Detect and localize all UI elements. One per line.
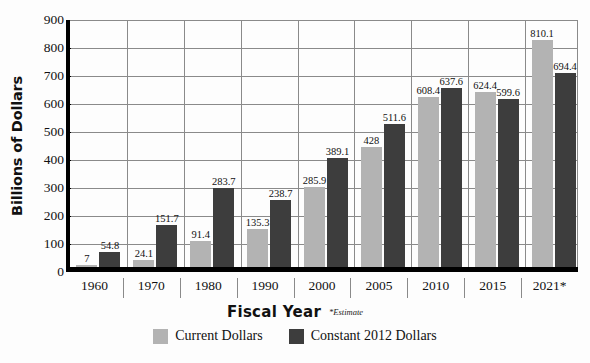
bar-value-label: 135.3 [246,217,270,228]
bar-group: 754.8 [70,20,127,267]
x-axis-tick-label: 1980 [180,278,237,294]
x-axis-tick-label: 2021* [521,278,578,294]
y-axis-tick-label: 600 [30,96,64,112]
bar-current-dollars: 608.4 [418,97,439,267]
y-axis-tick-labels: 9008007006005004003002001000 [26,20,64,272]
bar-current-dollars: 810.1 [532,40,553,267]
legend-item[interactable]: Constant 2012 Dollars [289,328,437,344]
y-axis-tick-label: 400 [30,152,64,168]
x-axis-tick-label: 1990 [237,278,294,294]
bar-value-label: 7 [84,253,89,264]
bar-current-dollars: 624.4 [475,92,496,267]
y-axis-tick-mark [66,160,71,161]
y-axis-tick-label: 0 [30,264,64,280]
x-axis-separator [180,278,181,298]
x-axis-separator [521,278,522,298]
bar-current-dollars: 7 [76,265,97,267]
bar-current-dollars: 285.9 [304,187,325,267]
y-axis-tick-mark [66,76,71,77]
x-axis-tick-label: 1970 [123,278,180,294]
bar-constant-dollars: 151.7 [156,225,177,267]
bar-value-label: 285.9 [303,175,327,186]
bar-value-label: 511.6 [383,112,406,123]
bar-group: 428511.6 [354,20,411,267]
bar-group: 608.4637.6 [411,20,468,267]
legend-label: Current Dollars [175,328,262,344]
estimate-note: *Estimate [329,307,363,317]
chart-legend: Current DollarsConstant 2012 Dollars [0,328,590,344]
bar-constant-dollars: 511.6 [384,124,405,267]
bar-group: 285.9389.1 [298,20,355,267]
bar-group: 810.1694.4 [525,20,582,267]
bar-value-label: 694.4 [553,61,577,72]
y-axis-tick-label: 500 [30,124,64,140]
bar-group: 91.4283.7 [184,20,241,267]
bar-value-label: 810.1 [530,28,554,39]
bar-constant-dollars: 54.8 [99,252,120,267]
plot-inner: 754.824.1151.791.4283.7135.3238.7285.938… [70,20,578,267]
bar-value-label: 637.6 [439,76,463,87]
bar-current-dollars: 24.1 [133,260,154,267]
legend-swatch-icon [289,329,304,344]
bar-value-label: 151.7 [155,213,179,224]
y-axis-tick-mark [66,244,71,245]
x-axis-separator [294,278,295,298]
legend-item[interactable]: Current Dollars [153,328,262,344]
bar-value-label: 24.1 [135,248,153,259]
x-axis-tick-label: 2005 [350,278,407,294]
x-axis-tick-label: 1960 [66,278,123,294]
y-axis-tick-label: 700 [30,68,64,84]
x-axis-tick-label: 2000 [294,278,351,294]
plot-area: 754.824.1151.791.4283.7135.3238.7285.938… [66,20,578,272]
y-axis-tick-label: 300 [30,180,64,196]
bar-value-label: 608.4 [416,85,440,96]
bar-constant-dollars: 637.6 [441,88,462,267]
bar-current-dollars: 428 [361,147,382,267]
bar-value-label: 91.4 [192,229,210,240]
x-axis-separator [123,278,124,298]
y-axis-tick-label: 800 [30,40,64,56]
y-axis-tick-label: 100 [30,236,64,252]
y-axis-tick-mark [66,132,71,133]
x-axis-tick-label: 2010 [407,278,464,294]
x-axis-separator [237,278,238,298]
y-axis-tick-label: 200 [30,208,64,224]
y-axis-tick-mark [66,48,71,49]
y-axis-tick-mark [66,216,71,217]
bar-chart: Billions of Dollars 90080070060050040030… [0,0,590,363]
bar-constant-dollars: 694.4 [555,73,576,267]
bar-constant-dollars: 283.7 [213,188,234,267]
bar-constant-dollars: 238.7 [270,200,291,267]
bar-group: 624.4599.6 [468,20,525,267]
bar-group: 24.1151.7 [127,20,184,267]
x-axis-separator [350,278,351,298]
y-axis-tick-mark [66,104,71,105]
bar-group: 135.3238.7 [241,20,298,267]
bar-value-label: 54.8 [101,240,119,251]
x-axis-separator [407,278,408,298]
x-axis-title: Fiscal Year [227,303,321,321]
x-axis-separator [464,278,465,298]
bar-value-label: 238.7 [269,188,293,199]
x-axis-tick-label: 2015 [464,278,521,294]
bar-current-dollars: 135.3 [247,229,268,267]
bar-current-dollars: 91.4 [190,241,211,267]
bar-constant-dollars: 599.6 [498,99,519,267]
bar-constant-dollars: 389.1 [327,158,348,267]
y-axis-title-text: Billions of Dollars [9,76,25,216]
x-axis-title-row: Fiscal Year*Estimate [0,303,590,321]
bar-value-label: 428 [364,135,380,146]
x-axis-tick-labels: 196019701980199020002005201020152021* [66,278,578,300]
legend-label: Constant 2012 Dollars [311,328,437,344]
legend-swatch-icon [153,329,168,344]
bar-value-label: 624.4 [473,80,497,91]
y-axis-tick-mark [66,188,71,189]
y-axis-tick-label: 900 [30,12,64,28]
bar-value-label: 599.6 [496,87,520,98]
bar-value-label: 389.1 [326,146,350,157]
bar-value-label: 283.7 [212,176,236,187]
